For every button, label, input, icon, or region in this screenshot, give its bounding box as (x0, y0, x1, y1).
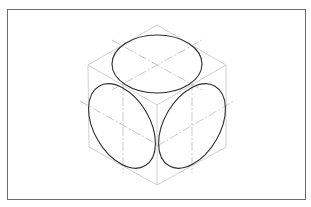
left-face-iso-axis (80, 101, 160, 146)
top-face-ellipse (112, 35, 202, 93)
right-face-iso-axis (157, 101, 234, 146)
cube-edges (88, 25, 226, 185)
isometric-cube-diagram (0, 0, 311, 207)
